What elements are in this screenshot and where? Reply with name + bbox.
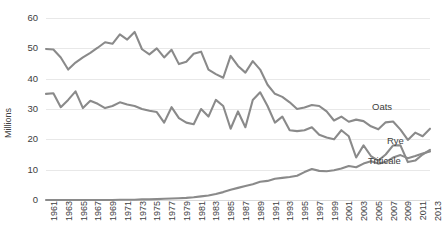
y-tick-label-60: 60 <box>10 13 38 22</box>
x-tick-label-1985: 1985 <box>227 201 236 221</box>
x-tick-label-2011: 2011 <box>419 201 428 220</box>
x-tick-label-2013: 2013 <box>434 201 443 221</box>
x-tick-label-1997: 1997 <box>316 201 325 221</box>
x-tick-label-1993: 1993 <box>286 201 295 221</box>
x-tick-label-1981: 1981 <box>198 201 207 221</box>
x-tick-label-1963: 1963 <box>65 201 74 221</box>
y-axis-title: Millions <box>1 78 15 168</box>
x-tick-label-1975: 1975 <box>153 201 162 221</box>
x-axis-tick-labels: 1961196319651967196919711973197519771979… <box>46 201 430 246</box>
y-tick-label-0: 0 <box>10 195 38 204</box>
y-tick-label-10: 10 <box>10 165 38 174</box>
x-tick-label-1979: 1979 <box>183 201 192 221</box>
x-tick-label-1989: 1989 <box>257 201 266 221</box>
series-label-triticale: Triticale <box>368 155 401 166</box>
series-label-rye: Rye <box>387 135 404 146</box>
x-tick-label-1973: 1973 <box>139 201 148 221</box>
x-tick-label-1971: 1971 <box>124 201 133 221</box>
x-tick-label-1995: 1995 <box>301 201 310 221</box>
x-tick-label-2003: 2003 <box>360 201 369 221</box>
series-path-oats <box>46 32 430 140</box>
x-tick-label-2007: 2007 <box>390 201 399 221</box>
x-tick-label-1999: 1999 <box>331 201 340 221</box>
x-tick-label-1987: 1987 <box>242 201 251 221</box>
y-tick-label-30: 30 <box>10 104 38 113</box>
x-tick-label-1961: 1961 <box>50 201 59 221</box>
x-tick-label-1977: 1977 <box>168 201 177 221</box>
y-tick-label-50: 50 <box>10 43 38 52</box>
x-tick-label-2001: 2001 <box>345 201 354 221</box>
x-tick-label-1983: 1983 <box>212 201 221 221</box>
x-tick-label-1991: 1991 <box>272 201 281 221</box>
x-tick-label-2009: 2009 <box>404 201 413 221</box>
y-tick-label-20: 20 <box>10 134 38 143</box>
x-tick-label-1965: 1965 <box>80 201 89 221</box>
x-tick-label-1969: 1969 <box>109 201 118 221</box>
x-tick-label-1967: 1967 <box>94 201 103 221</box>
y-tick-label-40: 40 <box>10 74 38 83</box>
x-tick-label-2005: 2005 <box>375 201 384 221</box>
series-label-oats: Oats <box>372 101 392 112</box>
